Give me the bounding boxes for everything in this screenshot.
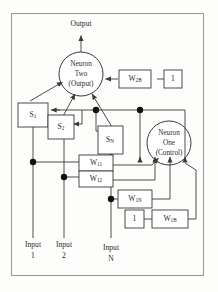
output-label: Output xyxy=(70,20,91,28)
w2b-sub: 2B xyxy=(136,77,142,83)
w11-label: W11 xyxy=(90,159,102,167)
sn-sub: N xyxy=(110,138,114,144)
neuron-one-line2: One xyxy=(163,140,175,147)
s1-label: S1 xyxy=(30,111,37,119)
w12-label: W12 xyxy=(90,175,102,183)
edge-s1-to-neuron-two xyxy=(30,82,63,101)
junction-dot-bus-1 xyxy=(93,107,99,113)
figure-canvas: Output Neuron Two (Output) Neuron One (C… xyxy=(0,0,218,292)
input-2-line1: Input xyxy=(56,241,72,249)
input-1-line1: Input xyxy=(25,241,41,249)
neuron-two-line3: (Output) xyxy=(69,81,94,88)
neuron-two-line2: Two xyxy=(75,71,88,78)
w1n-label: W1N xyxy=(128,195,142,203)
s2-sub: 2 xyxy=(62,125,65,131)
neuron-one-line3: (Control) xyxy=(156,150,183,157)
input-2-line2: 2 xyxy=(62,252,66,260)
neuron-one-line1: Neuron xyxy=(158,130,180,137)
junction-dot-input-n xyxy=(108,196,114,202)
junction-dot-input-1 xyxy=(30,159,36,165)
w1b-label: W1B xyxy=(163,215,176,223)
input-n-line2: N xyxy=(108,255,113,263)
edge-s2-to-neuron-two xyxy=(62,94,75,118)
s1-sub: 1 xyxy=(34,113,37,119)
sn-label: SN xyxy=(106,136,114,144)
bias-top-value: 1 xyxy=(171,75,175,83)
w11-sub: 11 xyxy=(97,161,102,167)
bias-bottom-value: 1 xyxy=(133,215,137,223)
w12-sub: 12 xyxy=(97,177,102,183)
input-n-line1: Input xyxy=(103,244,119,252)
edge-w1b-to-neuron-one xyxy=(185,163,196,170)
junction-dot-input-2 xyxy=(61,174,67,180)
s2-label: S2 xyxy=(58,123,65,131)
neuron-two-line1: Neuron xyxy=(70,61,92,68)
junction-dot-bus-2 xyxy=(137,107,143,113)
w1b-sub: 1B xyxy=(171,217,177,223)
input-1-line2: 1 xyxy=(31,252,35,260)
w1n-sub: 1N xyxy=(135,197,141,203)
w2b-label: W2B xyxy=(128,75,141,83)
